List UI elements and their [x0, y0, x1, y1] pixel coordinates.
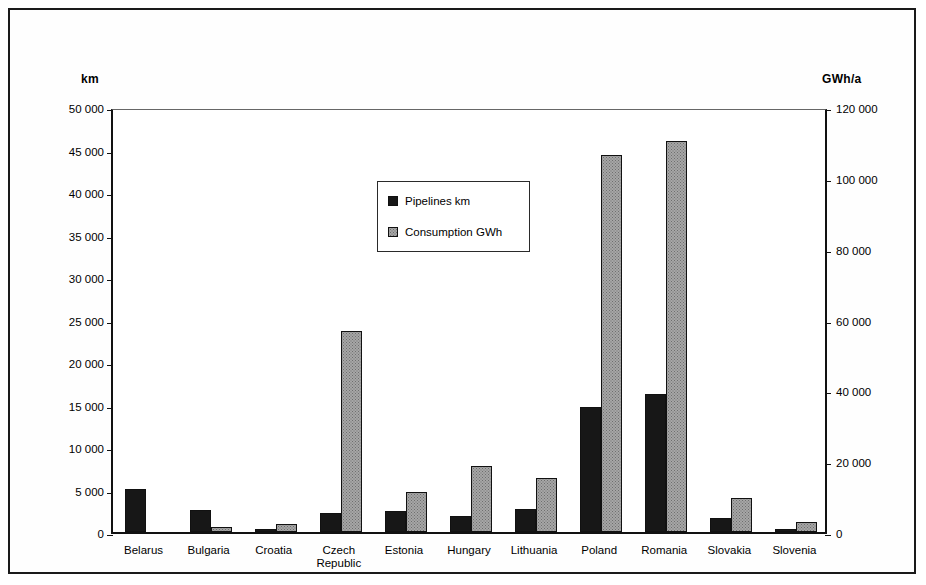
right-tick-label: 40 000 — [836, 387, 871, 399]
right-tick-mark — [825, 393, 831, 394]
bar-consumption-gwh — [471, 466, 492, 532]
right-tick-label: 60 000 — [836, 317, 871, 329]
left-tick-mark — [107, 450, 113, 451]
category-label: Poland — [567, 544, 632, 557]
bar-pipelines-km — [775, 529, 796, 532]
bar-pipelines-km — [515, 509, 536, 532]
left-tick-label: 25 000 — [69, 317, 104, 329]
category-label: Belarus — [111, 544, 176, 557]
bar-group — [190, 110, 232, 532]
left-tick-label: 50 000 — [69, 104, 104, 116]
left-tick-mark — [107, 238, 113, 239]
legend-swatch-pipelines-icon — [388, 196, 398, 206]
bar-group — [320, 110, 362, 532]
bar-consumption-gwh — [601, 155, 622, 532]
bar-pipelines-km — [190, 510, 211, 532]
left-tick-label: 40 000 — [69, 189, 104, 201]
legend-item-pipelines: Pipelines km — [388, 191, 519, 211]
bar-group — [775, 110, 817, 532]
left-tick-label: 15 000 — [69, 402, 104, 414]
bar-consumption-gwh — [731, 498, 752, 532]
category-label: Romania — [632, 544, 697, 557]
plot-area: 05 00010 00015 00020 00025 00030 00035 0… — [111, 109, 827, 534]
chart-legend: Pipelines km Consumption GWh — [377, 181, 530, 252]
right-tick-label: 100 000 — [836, 175, 878, 187]
left-tick-mark — [107, 110, 113, 111]
right-tick-mark — [825, 252, 831, 253]
right-tick-mark — [825, 181, 831, 182]
legend-label-pipelines: Pipelines km — [405, 195, 470, 207]
right-tick-mark — [825, 535, 831, 536]
bar-group — [385, 110, 427, 532]
category-label: Lithuania — [502, 544, 567, 557]
category-label: Hungary — [436, 544, 501, 557]
right-tick-label: 80 000 — [836, 246, 871, 258]
right-tick-mark — [825, 464, 831, 465]
left-tick-label: 30 000 — [69, 274, 104, 286]
bar-pipelines-km — [125, 489, 146, 532]
right-tick-mark — [825, 110, 831, 111]
right-tick-label: 20 000 — [836, 458, 871, 470]
category-label: Croatia — [241, 544, 306, 557]
bar-pipelines-km — [320, 513, 341, 532]
right-tick-label: 0 — [836, 529, 842, 541]
bar-pipelines-km — [450, 516, 471, 532]
category-label: Estonia — [371, 544, 436, 557]
bar-consumption-gwh — [341, 331, 362, 532]
bar-pipelines-km — [580, 407, 601, 532]
left-tick-mark — [107, 365, 113, 366]
bar-consumption-gwh — [211, 527, 232, 532]
right-tick-label: 120 000 — [836, 104, 878, 116]
left-tick-label: 20 000 — [69, 359, 104, 371]
right-axis-unit-label: GWh/a — [822, 72, 862, 86]
left-tick-mark — [107, 408, 113, 409]
left-tick-mark — [107, 535, 113, 536]
bar-consumption-gwh — [796, 522, 817, 532]
bar-consumption-gwh — [536, 478, 557, 532]
bar-pipelines-km — [385, 511, 406, 532]
left-axis-unit-label: km — [81, 72, 99, 86]
left-tick-label: 10 000 — [69, 444, 104, 456]
bar-group — [710, 110, 752, 532]
left-tick-mark — [107, 493, 113, 494]
left-tick-label: 0 — [98, 529, 104, 541]
bar-pipelines-km — [645, 394, 666, 532]
category-label: Bulgaria — [176, 544, 241, 557]
bar-group — [515, 110, 557, 532]
bar-consumption-gwh — [666, 141, 687, 532]
bar-consumption-gwh — [406, 492, 427, 532]
bar-group — [255, 110, 297, 532]
right-tick-mark — [825, 323, 831, 324]
category-label: Slovakia — [697, 544, 762, 557]
left-tick-mark — [107, 280, 113, 281]
bar-group — [450, 110, 492, 532]
category-label: Slovenia — [762, 544, 827, 557]
category-label: Czech Republic — [306, 544, 371, 570]
left-tick-mark — [107, 323, 113, 324]
left-tick-label: 5 000 — [75, 487, 104, 499]
left-tick-mark — [107, 153, 113, 154]
left-tick-label: 45 000 — [69, 147, 104, 159]
figure-frame: km GWh/a 05 00010 00015 00020 00025 0003… — [8, 8, 916, 574]
bar-group — [125, 110, 167, 532]
left-tick-mark — [107, 195, 113, 196]
left-tick-label: 35 000 — [69, 232, 104, 244]
bar-group — [645, 110, 687, 532]
legend-label-consumption: Consumption GWh — [405, 226, 502, 238]
legend-swatch-consumption-icon — [388, 227, 398, 237]
bar-consumption-gwh — [276, 524, 297, 532]
bar-group — [580, 110, 622, 532]
bar-pipelines-km — [710, 518, 731, 532]
bar-pipelines-km — [255, 529, 276, 532]
legend-item-consumption: Consumption GWh — [388, 222, 519, 242]
